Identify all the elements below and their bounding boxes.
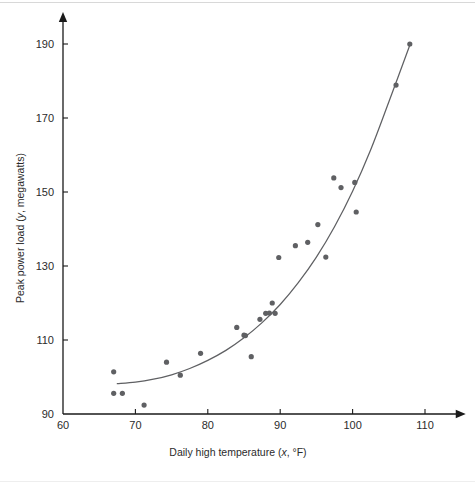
data-point bbox=[393, 82, 398, 87]
data-point bbox=[352, 180, 357, 185]
plot-canvas: 60708090100110 90110130150170190 Daily h… bbox=[0, 0, 475, 482]
regression-curve bbox=[117, 43, 410, 383]
data-point bbox=[198, 351, 203, 356]
y-tick-label: 150 bbox=[36, 186, 54, 198]
data-points bbox=[111, 41, 412, 407]
y-tick-label: 110 bbox=[36, 334, 54, 346]
x-tick-label: 70 bbox=[129, 419, 141, 431]
data-point bbox=[407, 41, 412, 46]
data-point bbox=[305, 240, 310, 245]
data-point bbox=[270, 300, 275, 305]
x-axis-arrowhead bbox=[456, 410, 466, 418]
data-point bbox=[331, 175, 336, 180]
x-tick-label: 110 bbox=[416, 419, 434, 431]
data-point bbox=[293, 243, 298, 248]
data-point bbox=[276, 255, 281, 260]
svg-text:Daily high temperature (x, °F): Daily high temperature (x, °F) bbox=[169, 446, 306, 458]
y-axis-arrowhead bbox=[59, 12, 67, 22]
data-point bbox=[243, 333, 248, 338]
y-tick-label: 130 bbox=[36, 260, 54, 272]
data-point bbox=[141, 403, 146, 408]
data-point bbox=[164, 360, 169, 365]
y-tick-label: 190 bbox=[36, 38, 54, 50]
data-point bbox=[120, 391, 125, 396]
data-point bbox=[257, 317, 262, 322]
data-point bbox=[111, 391, 116, 396]
svg-text:Peak power load (y, megawatts): Peak power load (y, megawatts) bbox=[14, 153, 26, 303]
data-point bbox=[249, 354, 254, 359]
data-point bbox=[111, 369, 116, 374]
data-point bbox=[267, 310, 272, 315]
x-tick-label: 60 bbox=[57, 419, 69, 431]
y-axis-label: Peak power load (y, megawatts) bbox=[14, 153, 26, 303]
x-tick-label: 90 bbox=[274, 419, 286, 431]
data-point bbox=[273, 311, 278, 316]
x-axis-label: Daily high temperature (x, °F) bbox=[169, 446, 306, 458]
data-point bbox=[315, 222, 320, 227]
data-point bbox=[354, 209, 359, 214]
data-point bbox=[323, 255, 328, 260]
y-tick-label: 90 bbox=[42, 408, 54, 420]
axes-group bbox=[59, 12, 466, 418]
data-point bbox=[178, 373, 183, 378]
x-axis-ticks: 60708090100110 bbox=[57, 409, 434, 431]
y-tick-label: 170 bbox=[36, 112, 54, 124]
data-point bbox=[234, 325, 239, 330]
fit-curve bbox=[117, 43, 410, 383]
x-tick-label: 100 bbox=[343, 419, 361, 431]
data-point bbox=[338, 185, 343, 190]
scatter-plot-figure: 60708090100110 90110130150170190 Daily h… bbox=[0, 0, 475, 482]
x-tick-label: 80 bbox=[202, 419, 214, 431]
